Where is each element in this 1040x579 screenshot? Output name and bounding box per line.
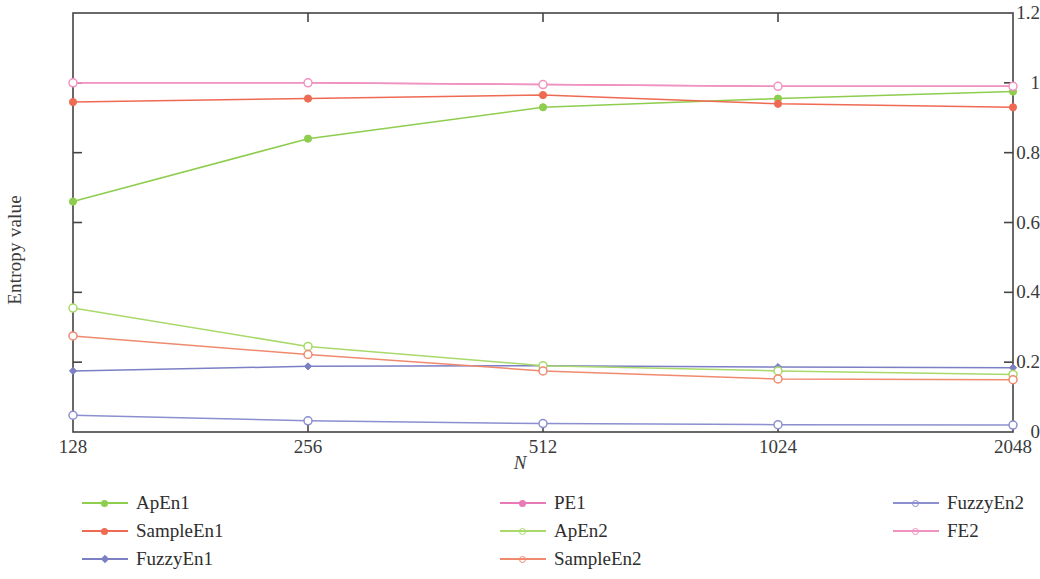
legend-marker-icon (500, 552, 546, 566)
legend-marker-icon (893, 524, 939, 538)
series-fe2 (69, 79, 1017, 90)
chart-figure: Entropy value N 00.20.40.60.811.2 128256… (0, 0, 1040, 579)
legend-item-apen2[interactable]: ApEn2 (500, 517, 642, 545)
legend-column-3: FuzzyEn2FE2 (893, 489, 1024, 545)
legend-item-fe2[interactable]: FE2 (893, 517, 1024, 545)
legend-label: ApEn1 (128, 492, 190, 514)
legend-label: PE1 (546, 492, 586, 514)
legend-marker-icon (82, 552, 128, 566)
legend-marker-icon (893, 496, 939, 510)
legend-item-sampleen1[interactable]: SampleEn1 (82, 517, 224, 545)
legend-label: FuzzyEn1 (128, 548, 213, 570)
legend-marker-icon (82, 496, 128, 510)
legend-label: FuzzyEn2 (939, 492, 1024, 514)
legend-item-apen1[interactable]: ApEn1 (82, 489, 224, 517)
legend-marker-icon (500, 524, 546, 538)
legend-label: ApEn2 (546, 520, 608, 542)
series-sampleen2 (69, 332, 1017, 384)
legend-item-fuzzyen1[interactable]: FuzzyEn1 (82, 545, 224, 573)
series-fuzzyen2 (69, 411, 1017, 429)
legend-column-1: ApEn1SampleEn1FuzzyEn1 (82, 489, 224, 573)
legend-marker-icon (500, 496, 546, 510)
legend-item-sampleen2[interactable]: SampleEn2 (500, 545, 642, 573)
legend-label: SampleEn2 (546, 548, 642, 570)
legend-marker-icon (82, 524, 128, 538)
legend-column-2: PE1ApEn2SampleEn2 (500, 489, 642, 573)
legend-label: SampleEn1 (128, 520, 224, 542)
legend-label: FE2 (939, 520, 979, 542)
legend-item-fuzzyen2[interactable]: FuzzyEn2 (893, 489, 1024, 517)
chart-legend: ApEn1SampleEn1FuzzyEn1 PE1ApEn2SampleEn2… (0, 489, 1040, 579)
legend-item-pe1[interactable]: PE1 (500, 489, 642, 517)
